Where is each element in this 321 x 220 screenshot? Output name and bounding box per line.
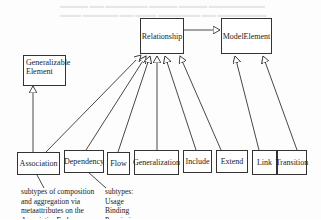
class-label: Association <box>20 159 58 168</box>
class-label: Include <box>186 157 210 166</box>
note-association-subtypes: subtypes of composition and aggregation … <box>21 187 94 219</box>
generalization-transition-to-modelelement <box>263 56 297 150</box>
note-dependency-subtypes: subtypes: Usage Binding Permission Abstr… <box>105 187 140 219</box>
note-line: and aggregation via <box>21 197 94 207</box>
generalization-extend-to-relationship <box>180 56 221 150</box>
note-line: Usage <box>105 197 140 207</box>
class-generalizableelement: Generalizable Element <box>23 55 66 86</box>
note-line: AssociationEnd <box>21 216 94 220</box>
class-link: Link <box>252 150 277 175</box>
generalization-link-to-modelelement <box>235 56 259 150</box>
note-line: subtypes of composition <box>21 187 94 197</box>
note-link-dependency <box>88 172 106 188</box>
class-label: Extend <box>221 157 244 166</box>
diagram-canvas: ▬▬▬▬ ▬▬ ▬▬▬▬▬▬ ▬▬▬▬ ▬▬▬▬ ▬▬▬▬▬▬▬▬ ▬▬▬ ▬▬… <box>0 0 321 219</box>
class-relationship: Relationship <box>140 18 184 54</box>
class-label: Relationship <box>142 32 182 41</box>
note-line: Binding <box>105 206 140 216</box>
class-transition: Transition <box>277 150 307 175</box>
class-label: Flow <box>110 159 126 168</box>
class-modelelement: ModelElement <box>221 18 272 54</box>
class-label: ModelElement <box>223 32 271 41</box>
class-dependency: Dependency <box>64 150 104 173</box>
class-label: Generalization <box>133 158 180 167</box>
class-association: Association <box>17 152 60 175</box>
class-label-line: Element <box>26 67 70 76</box>
class-label: Dependency <box>64 157 104 166</box>
class-label-line: Generalizable <box>26 58 70 67</box>
class-generalization: Generalization <box>134 150 179 175</box>
generalization-dependency-to-relationship <box>86 56 146 150</box>
class-extend: Extend <box>216 150 248 173</box>
class-label: Link <box>257 158 272 167</box>
class-label: Transition <box>276 158 309 167</box>
class-include: Include <box>183 150 212 173</box>
class-flow: Flow <box>107 152 130 175</box>
generalization-flow-to-relationship <box>118 56 150 152</box>
note-line: metaattributes on the <box>21 206 94 216</box>
note-line: Permission <box>105 216 140 220</box>
generalization-include-to-relationship <box>165 56 196 150</box>
note-line: subtypes: <box>105 187 140 197</box>
